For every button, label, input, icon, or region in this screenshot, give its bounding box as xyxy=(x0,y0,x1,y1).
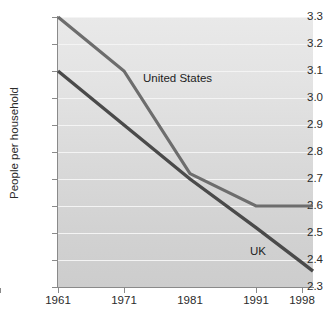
series-line-united-states xyxy=(58,17,313,206)
series-label-united-states: United States xyxy=(143,72,212,84)
series-label-uk: UK xyxy=(250,245,266,257)
series-line-uk xyxy=(58,71,313,271)
